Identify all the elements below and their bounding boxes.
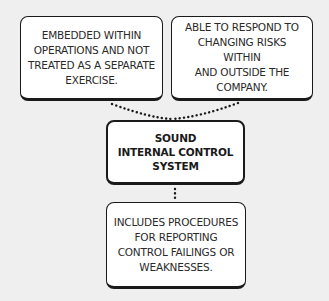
connector-left-to-center xyxy=(112,104,172,119)
box-text: EMBEDDED WITHIN OPERATIONS AND NOT TREAT… xyxy=(28,28,155,88)
box-text: INCLUDES PROCEDURES FOR REPORTING CONTRO… xyxy=(114,215,238,275)
box-text: SOUND INTERNAL CONTROL SYSTEM xyxy=(118,131,233,173)
box-embedded-within-operations: EMBEDDED WITHIN OPERATIONS AND NOT TREAT… xyxy=(20,16,163,101)
box-text: ABLE TO RESPOND TO CHANGING RISKS WITHIN… xyxy=(178,20,306,95)
box-sound-internal-control-system: SOUND INTERNAL CONTROL SYSTEM xyxy=(106,120,245,185)
box-reporting-procedures: INCLUDES PROCEDURES FOR REPORTING CONTRO… xyxy=(106,202,246,289)
connector-right-to-center xyxy=(172,103,238,119)
box-able-to-respond: ABLE TO RESPOND TO CHANGING RISKS WITHIN… xyxy=(171,16,313,101)
